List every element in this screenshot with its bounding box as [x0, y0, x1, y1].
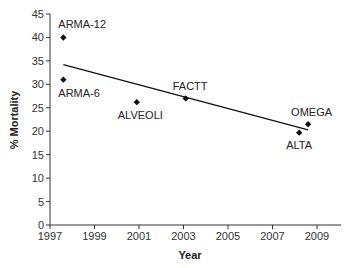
- scatter-chart: 0510152025303540451997199920012003200520…: [0, 0, 347, 268]
- diamond-marker-icon: [296, 129, 302, 135]
- y-axis-title: % Mortality: [8, 90, 20, 150]
- x-tick-label: 2005: [216, 230, 240, 242]
- x-tick-label: 2003: [171, 230, 195, 242]
- point-label: ARMA-6: [58, 87, 100, 99]
- diamond-marker-icon: [60, 34, 66, 40]
- x-tick-label: 1999: [82, 230, 106, 242]
- y-tick-label: 25: [32, 102, 44, 114]
- y-tick-label: 20: [32, 125, 44, 137]
- point-label: ALTA: [286, 139, 313, 151]
- y-tick-label: 30: [32, 78, 44, 90]
- diamond-marker-icon: [134, 99, 140, 105]
- y-tick-label: 35: [32, 55, 44, 67]
- point-label: ARMA-12: [58, 18, 106, 30]
- x-tick-label: 2007: [260, 230, 284, 242]
- y-tick-label: 15: [32, 149, 44, 161]
- axes: 0510152025303540451997199920012003200520…: [32, 8, 341, 242]
- point-label: FACTT: [173, 80, 208, 92]
- point-label: OMEGA: [291, 106, 333, 118]
- y-tick-label: 10: [32, 172, 44, 184]
- data-points: ARMA-12ARMA-6ALVEOLIFACTTALTAOMEGA: [58, 18, 332, 150]
- point-label: ALVEOLI: [118, 109, 163, 121]
- y-tick-label: 5: [38, 196, 44, 208]
- x-axis-title: Year: [178, 249, 202, 261]
- diamond-marker-icon: [60, 76, 66, 82]
- y-tick-label: 40: [32, 31, 44, 43]
- x-tick-label: 2009: [305, 230, 329, 242]
- y-tick-label: 45: [32, 8, 44, 20]
- x-tick-label: 2001: [127, 230, 151, 242]
- x-tick-label: 1997: [38, 230, 62, 242]
- diamond-marker-icon: [305, 121, 311, 127]
